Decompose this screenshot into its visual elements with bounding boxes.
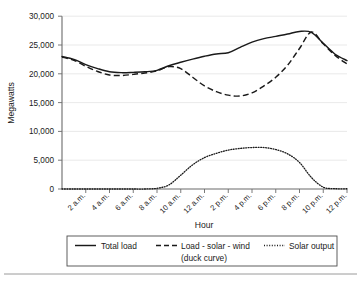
chart-canvas: 30,000 25,000 20,000 15,000 10,000 5,000… [0,0,361,284]
y-tick-label-0: 0 [49,185,54,194]
y-tick-label-25000: 25,000 [29,41,54,50]
y-tick-label-5000: 5,000 [34,156,55,165]
y-tick-label-30000: 30,000 [29,12,54,21]
x-tick-label-4pm: 4 p.m. [232,191,253,212]
y-tick-label-15000: 15,000 [29,99,54,108]
legend-label-total-load: Total load [101,241,137,251]
series-line-total-load [62,31,347,73]
x-tick-label-10pm: 10 p.m. [300,191,324,215]
x-tick-label-8pm: 8 p.m. [280,191,301,212]
duck-curve-figure: 30,000 25,000 20,000 15,000 10,000 5,000… [0,0,361,284]
data-series-group [62,31,347,189]
x-tick-label-6pm: 6 p.m. [256,191,277,212]
y-axis: 30,000 25,000 20,000 15,000 10,000 5,000… [6,12,62,194]
x-tick-label-2am: 2 a.m. [66,191,87,212]
legend-label-duck-curve: Load - solar - wind [181,241,250,251]
x-tick-label-12am: 12 a.m. [182,191,206,215]
gridlines [62,16,347,160]
x-axis: 2 a.m. 4 a.m. 6 a.m. 8 a.m. 10 a.m. 12 a… [62,189,348,230]
legend-sublabel-duck-curve: (duck curve) [181,253,227,263]
x-tick-label-12pm: 12 p.m. [324,191,348,215]
series-line-duck-curve [62,32,347,96]
x-tick-label-4am: 4 a.m. [90,191,111,212]
x-tick-label-10am: 10 a.m. [158,191,182,215]
legend-label-solar-output: Solar output [289,241,335,251]
x-tick-label-8am: 8 a.m. [137,191,158,212]
x-axis-title: Hour [195,220,214,230]
y-axis-title: Megawatts [6,82,16,124]
x-tick-label-6am: 6 a.m. [113,191,134,212]
y-tick-label-20000: 20,000 [29,70,54,79]
series-line-solar-output [62,147,347,189]
y-tick-label-10000: 10,000 [29,127,54,136]
x-tick-label-2pm: 2 p.m. [208,191,229,212]
legend: Total load Load - solar - wind (duck cur… [67,236,337,266]
